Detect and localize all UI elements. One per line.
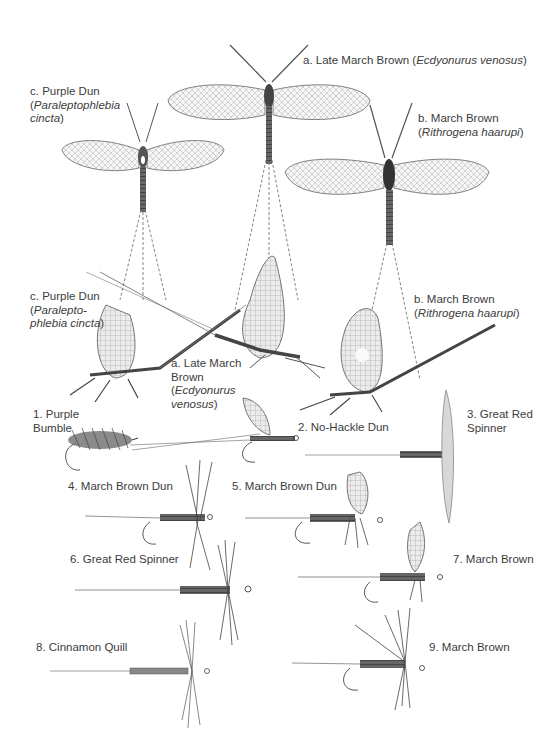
label-late-march-brown-dorsal: a. Late March Brown (Ecdyonurus venosus) [303,54,527,68]
label-fly-9: 9. March Brown [429,641,510,655]
label-fly-5: 5. March Brown Dun [232,480,337,494]
label-fly-1: 1. Purple Bumble [33,408,79,435]
label-purple-dun-side: c. Purple Dun (Paralepto- phlebia cincta… [30,290,104,331]
label-fly-2: 2. No-Hackle Dun [298,421,389,435]
label-fly-4: 4. March Brown Dun [68,480,173,494]
illustration-plate: a. Late March Brown (Ecdyonurus venosus)… [0,0,559,756]
label-march-brown-dorsal: b. March Brown (Rithrogena haarupi) [418,112,524,139]
label-fly-6: 6. Great Red Spinner [70,553,179,567]
label-fly-7: 7. March Brown [453,553,534,567]
march-brown-side-view [300,309,495,415]
purple-dun-spinner-dorsal [62,103,224,300]
fly-1-purple-bumble [66,428,260,470]
march-brown-spinner-dorsal [285,103,489,380]
fly-7-march-brown [298,522,443,602]
label-fly-8: 8. Cinnamon Quill [36,641,127,655]
label-march-brown-side: b. March Brown (Rithrogena haarupi) [414,293,520,320]
label-late-march-brown-side: a. Late March Brown (Ecdyonurus venosus) [171,357,241,411]
fly-8-cinnamon-quill [50,620,210,728]
fly-9-march-brown [292,608,425,710]
label-fly-3: 3. Great Red Spinner [467,408,533,435]
label-purple-dun-dorsal: c. Purple Dun (Paraleptophlebia cincta) [30,85,120,126]
fly-3-great-red-spinner [305,390,454,523]
